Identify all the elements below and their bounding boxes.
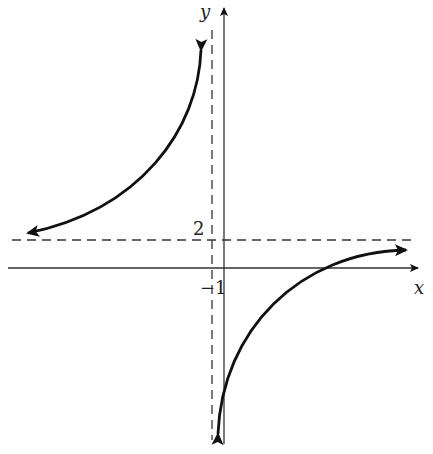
- left-branch-curve: [28, 50, 201, 233]
- x-tick-label: −1: [200, 277, 227, 298]
- right-branch-curve: [218, 250, 406, 434]
- y-tick-label: 2: [193, 218, 204, 239]
- graph-figure: y x 2 −1: [0, 0, 433, 454]
- x-axis-label: x: [414, 277, 424, 298]
- y-axis-label: y: [199, 1, 211, 22]
- graph-svg: y x 2 −1: [0, 0, 433, 454]
